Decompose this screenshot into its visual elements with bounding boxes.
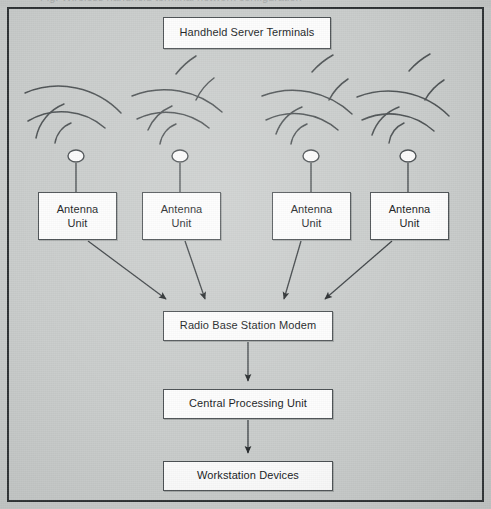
node-antenna-3-label-line2: Unit [302,217,322,229]
edges-group [88,241,392,453]
radio-wave-arcs-antenna-4 [357,54,449,143]
node-handheld-label: Handheld Server Terminals [180,26,315,40]
node-modem-label: Radio Base Station Modem [180,319,316,333]
node-antenna-unit-4[interactable]: AntennaUnit [370,192,449,240]
node-central-processing-unit[interactable]: Central Processing Unit [163,389,333,419]
radio-waves-group [25,54,449,144]
edge-antenna-1-to-modem [88,241,166,299]
node-workstation-label: Workstation Devices [197,469,299,483]
antenna-head-3 [303,150,319,162]
node-antenna-unit-3[interactable]: AntennaUnit [272,192,351,240]
radio-wave-arcs-antenna-1 [25,86,121,143]
antenna-head-1 [68,150,84,162]
node-cpu-label: Central Processing Unit [189,397,307,411]
diagram-canvas [0,0,491,509]
node-antenna-2-label-line2: Unit [172,217,192,229]
diagram-page: Fig. Wireless handheld terminal network … [0,0,491,509]
radio-wave-arcs-antenna-3 [262,55,352,144]
edge-antenna-3-to-modem [284,241,301,299]
edge-antenna-4-to-modem [325,241,392,299]
node-antenna-3-label-line1: Antenna [291,203,333,215]
node-antenna-unit-1[interactable]: AntennaUnit [38,192,117,240]
node-antenna-2-label-line1: Antenna [161,203,203,215]
node-workstation-devices[interactable]: Workstation Devices [163,461,333,491]
antenna-masts-group [68,150,416,192]
node-antenna-1-label-line2: Unit [68,217,88,229]
radio-wave-arcs-antenna-2 [132,56,222,144]
node-antenna-1-label-line1: Antenna [57,203,99,215]
node-antenna-4-label-line2: Unit [400,217,420,229]
node-antenna-4-label-line1: Antenna [389,203,431,215]
antenna-head-2 [172,150,188,162]
node-handheld-server-terminals[interactable]: Handheld Server Terminals [163,17,331,49]
edge-antenna-2-to-modem [185,241,205,299]
node-antenna-unit-2[interactable]: AntennaUnit [142,192,221,240]
node-radio-base-station-modem[interactable]: Radio Base Station Modem [163,311,333,341]
antenna-head-4 [400,150,416,162]
